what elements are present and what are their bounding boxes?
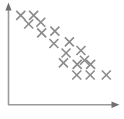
data-point-marker: [59, 58, 68, 67]
data-point-marker: [50, 27, 59, 36]
arrow-right-icon: [112, 102, 120, 108]
data-point-marker: [86, 71, 95, 80]
arrow-up-icon: [5, 3, 11, 11]
data-point-marker: [37, 28, 46, 37]
data-point-marker: [76, 46, 85, 55]
x-axis: [8, 102, 120, 108]
scatter-plot-figure: [0, 0, 124, 119]
data-point-marker: [16, 11, 25, 20]
data-point-marker: [36, 18, 45, 27]
data-point-marker: [49, 39, 58, 48]
data-point-marker: [102, 71, 111, 80]
plot-canvas: [0, 0, 124, 119]
data-point-marker: [65, 37, 74, 46]
data-point-marker: [24, 20, 33, 29]
data-point-marker: [72, 71, 81, 80]
data-point-group: [16, 11, 111, 80]
data-point-marker: [86, 60, 95, 69]
y-axis: [5, 3, 11, 106]
data-point-marker: [62, 49, 71, 58]
